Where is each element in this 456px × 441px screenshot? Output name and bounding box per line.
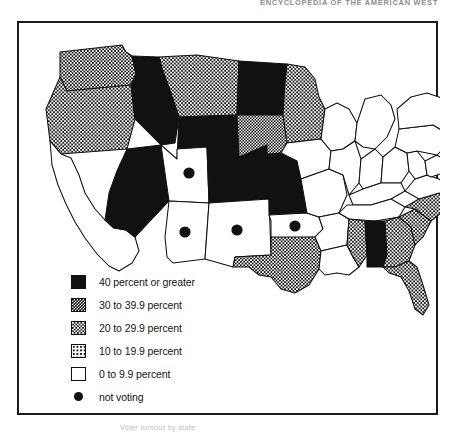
figure-frame: 40 percent or greater 30 to 39.9 percent… (17, 21, 438, 415)
not-voting-dot-OK (289, 220, 300, 231)
state-WA (60, 45, 136, 91)
legend-swatch-not-voting (71, 390, 86, 404)
legend-item-10-to-19: 10 to 19.9 percent (71, 339, 291, 362)
legend-label-10-to-19: 10 to 19.9 percent (99, 345, 182, 357)
legend-item-40-or-greater: 40 percent or greater (71, 270, 291, 293)
not-voting-dot-UT (183, 167, 194, 178)
state-OR (46, 77, 135, 154)
legend-item-30-to-39: 30 to 39.9 percent (71, 293, 291, 316)
legend-item-not-voting: not voting (71, 385, 291, 408)
legend-label-30-to-39: 30 to 39.9 percent (99, 299, 182, 311)
state-PA (395, 125, 440, 155)
legend-swatch-10-to-19 (71, 344, 86, 358)
state-AL (365, 221, 387, 267)
legend-item-0-to-9: 0 to 9.9 percent (71, 362, 291, 385)
state-MN (283, 64, 325, 143)
state-MO (301, 169, 347, 217)
state-MI (355, 95, 395, 149)
state-ND (237, 61, 287, 115)
legend-item-20-to-29: 20 to 29.9 percent (71, 316, 291, 339)
legend-label-0-to-9: 0 to 9.9 percent (99, 368, 170, 380)
not-voting-dot-NM (231, 224, 242, 235)
not-voting-dot-AZ (179, 226, 190, 237)
running-head: ENCYCLOPEDIA OF THE AMERICAN WEST (260, 0, 438, 6)
state-KS (267, 179, 307, 215)
legend-swatch-40-or-greater (71, 275, 86, 289)
legend-label-not-voting: not voting (99, 391, 144, 403)
legend-swatch-0-to-9 (71, 367, 86, 381)
not-voting-dot-icon (74, 392, 84, 402)
state-WV (407, 151, 427, 179)
legend-label-20-to-29: 20 to 29.9 percent (99, 322, 182, 334)
state-FL (383, 261, 429, 315)
figure-caption: Voter turnout by state (120, 424, 195, 431)
map-legend: 40 percent or greater 30 to 39.9 percent… (71, 270, 291, 408)
state-MD (425, 155, 440, 177)
legend-label-40-or-greater: 40 percent or greater (99, 276, 195, 288)
legend-swatch-30-to-39 (71, 298, 86, 312)
legend-swatch-20-to-29 (71, 321, 86, 335)
state-NV (105, 145, 169, 237)
state-NY (397, 93, 440, 131)
